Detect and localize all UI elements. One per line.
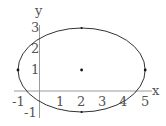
center-point	[80, 69, 83, 72]
right-vertex-point	[144, 69, 147, 72]
y-tick-label: 3	[31, 20, 39, 35]
y-tick-label: -1	[24, 105, 37, 120]
y-tick-label: 1	[31, 62, 39, 77]
x-tick-label: 3	[98, 94, 106, 109]
x-tick-label: 1	[56, 94, 64, 109]
x-axis-label: x	[152, 83, 160, 98]
y-axis-label: y	[34, 3, 43, 18]
x-tick-label: 5	[141, 94, 149, 109]
ellipse-plot: y x -1 1 2 3 4 5 3 2 1 -1	[0, 0, 166, 126]
x-tick-label: 2	[77, 94, 85, 109]
bottom-vertex-point	[81, 111, 83, 113]
left-vertex-point	[17, 69, 20, 72]
x-tick-label: -1	[12, 94, 25, 109]
top-vertex-point	[81, 27, 83, 29]
